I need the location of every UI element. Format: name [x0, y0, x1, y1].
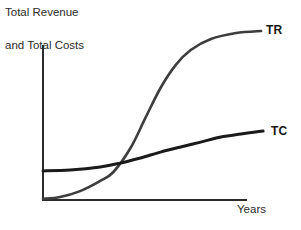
tc-curve-label: TC: [271, 124, 287, 138]
x-axis-label: Years: [237, 203, 266, 215]
total-costs-curve: [43, 131, 263, 171]
plot-svg: [0, 0, 301, 230]
total-revenue-curve: [43, 31, 261, 199]
revenue-costs-chart: Total Revenue and Total Costs TR TC Year…: [0, 0, 301, 230]
tr-curve-label: TR: [266, 23, 282, 37]
curves: [43, 31, 263, 199]
